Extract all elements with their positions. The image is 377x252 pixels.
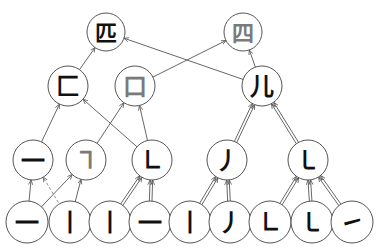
node-label: 一 <box>138 209 162 237</box>
edges-layer <box>28 38 346 213</box>
edge-n_hengzhe-to-n_kou <box>93 103 124 150</box>
node-p3: 丨 <box>89 201 131 243</box>
edge-line <box>93 103 124 150</box>
node-label: 一 <box>15 209 39 237</box>
node-n_pie: 丿 <box>207 140 247 180</box>
nodes-layer: 匹四匚口儿一㇕㇗丿㇄一丨丨一丨丿㇗㇄㇀ <box>6 13 373 243</box>
node-p9: ㇀ <box>331 201 373 243</box>
node-label: 匚 <box>56 73 80 101</box>
node-label: 一 <box>21 147 45 175</box>
node-p4: 一 <box>129 201 171 243</box>
node-label: ㇀ <box>340 209 364 237</box>
node-n_heng: 一 <box>13 140 53 180</box>
node-p6: 丿 <box>209 201 251 243</box>
node-label: 丿 <box>215 147 239 175</box>
node-label: ㇄ <box>296 147 320 175</box>
node-p7: ㇗ <box>249 201 291 243</box>
node-p5: 丨 <box>169 201 211 243</box>
edge-line <box>146 40 226 80</box>
node-label: 丨 <box>98 209 122 237</box>
edge-n_kou-to-n_si <box>146 40 226 80</box>
node-label: ㇄ <box>300 209 324 237</box>
node-label: ㇕ <box>74 147 98 175</box>
node-n_kou: 口 <box>115 66 155 106</box>
node-label: 丿 <box>218 209 242 237</box>
node-label: 匹 <box>95 21 117 46</box>
node-label: ㇗ <box>258 209 282 237</box>
node-p1: 一 <box>6 201 48 243</box>
node-n_hengzhe: ㇕ <box>66 140 106 180</box>
node-label: ㇗ <box>140 147 164 175</box>
node-label: 丨 <box>178 209 202 237</box>
node-label: 丨 <box>58 209 82 237</box>
node-n_shuwangou: ㇄ <box>288 140 328 180</box>
node-n_pi: 匹 <box>87 13 125 51</box>
character-hierarchy-diagram: 匹四匚口儿一㇕㇗丿㇄一丨丨一丨丿㇗㇄㇀ <box>0 0 377 252</box>
node-p8: ㇄ <box>291 201 333 243</box>
node-label: 口 <box>123 73 147 101</box>
node-n_er: 儿 <box>242 66 282 106</box>
node-label: 四 <box>232 21 254 46</box>
node-n_shuzhe: ㇗ <box>132 140 172 180</box>
node-n_si: 四 <box>224 13 262 51</box>
node-label: 儿 <box>250 73 274 101</box>
node-n_fang: 匚 <box>48 66 88 106</box>
node-p2: 丨 <box>49 201 91 243</box>
